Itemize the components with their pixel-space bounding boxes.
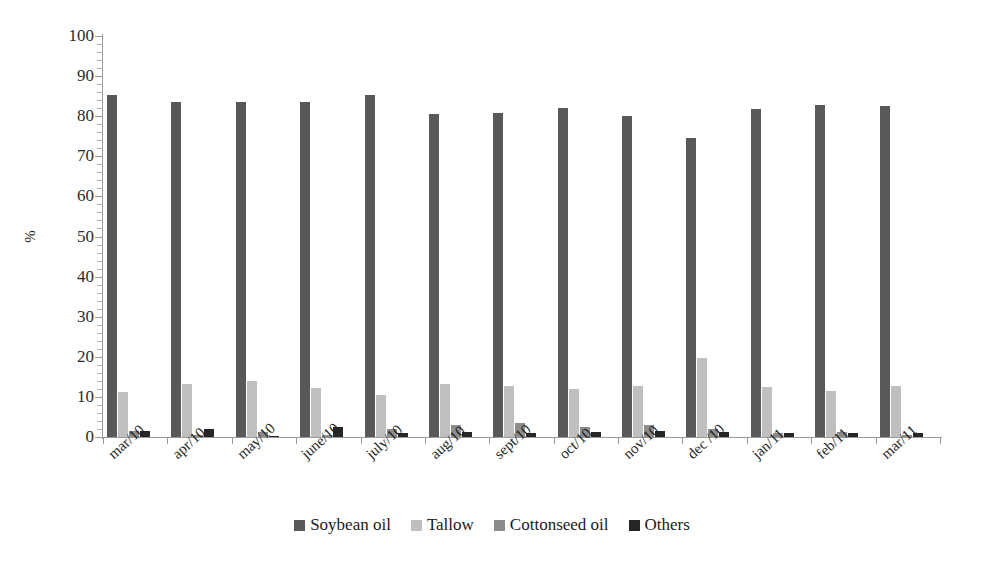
y-axis-tick-label: 70 bbox=[48, 147, 94, 164]
legend-label: Cottonseed oil bbox=[510, 515, 609, 535]
bar bbox=[107, 95, 117, 437]
bar bbox=[751, 109, 761, 437]
bar bbox=[247, 381, 257, 437]
y-axis-tick bbox=[95, 277, 103, 278]
y-axis-tick-label: 60 bbox=[48, 187, 94, 204]
y-axis-tick bbox=[95, 317, 103, 318]
plot-area bbox=[103, 36, 940, 437]
legend-item[interactable]: Tallow bbox=[411, 515, 474, 535]
x-axis-tick bbox=[167, 437, 168, 444]
y-axis-tick bbox=[95, 116, 103, 117]
legend-item[interactable]: Others bbox=[629, 515, 690, 535]
x-axis-tick bbox=[554, 437, 555, 444]
legend-label: Soybean oil bbox=[310, 515, 391, 535]
x-axis-tick bbox=[296, 437, 297, 444]
x-axis-tick bbox=[103, 437, 104, 444]
bar bbox=[365, 95, 375, 437]
legend-label: Tallow bbox=[427, 515, 474, 535]
bar-chart: 0102030405060708090100 % mar/10apr/10may… bbox=[0, 0, 984, 569]
y-axis-tick-label: 100 bbox=[48, 27, 94, 44]
y-axis-tick-label: 50 bbox=[48, 228, 94, 245]
legend-item[interactable]: Cottonseed oil bbox=[494, 515, 609, 535]
x-axis-tick bbox=[232, 437, 233, 444]
y-axis-tick-label: 10 bbox=[48, 388, 94, 405]
legend-label: Others bbox=[645, 515, 690, 535]
y-axis-tick bbox=[95, 196, 103, 197]
y-axis-tick bbox=[95, 36, 103, 37]
y-axis-tick-label: 30 bbox=[48, 308, 94, 325]
bar bbox=[686, 138, 696, 437]
x-axis-tick bbox=[747, 437, 748, 444]
y-axis-tick bbox=[95, 76, 103, 77]
x-axis-tick bbox=[425, 437, 426, 444]
bar bbox=[880, 106, 890, 437]
y-axis-tick-label: 0 bbox=[48, 428, 94, 445]
y-axis-tick bbox=[95, 237, 103, 238]
y-axis-tick-label: 40 bbox=[48, 268, 94, 285]
bar bbox=[236, 102, 246, 437]
y-axis-tick bbox=[95, 397, 103, 398]
x-axis-tick bbox=[361, 437, 362, 444]
y-axis-tick bbox=[95, 156, 103, 157]
x-axis-tick bbox=[489, 437, 490, 444]
y-axis-title: % bbox=[22, 230, 39, 243]
x-axis-tick bbox=[618, 437, 619, 444]
y-axis-tick-label: 90 bbox=[48, 67, 94, 84]
bar bbox=[171, 102, 181, 437]
x-axis-tick bbox=[811, 437, 812, 444]
bar bbox=[300, 102, 310, 437]
x-axis-tick bbox=[876, 437, 877, 444]
legend-item[interactable]: Soybean oil bbox=[294, 515, 391, 535]
bar bbox=[815, 105, 825, 437]
legend-swatch-icon bbox=[629, 520, 640, 531]
y-axis-tick bbox=[95, 357, 103, 358]
y-axis-tick-label: 20 bbox=[48, 348, 94, 365]
bar bbox=[493, 113, 503, 437]
chart-legend: Soybean oilTallowCottonseed oilOthers bbox=[0, 515, 984, 535]
legend-swatch-icon bbox=[411, 520, 422, 531]
x-axis-tick bbox=[682, 437, 683, 444]
legend-swatch-icon bbox=[494, 520, 505, 531]
x-axis-tick bbox=[940, 437, 941, 444]
bar bbox=[429, 114, 439, 437]
legend-swatch-icon bbox=[294, 520, 305, 531]
y-axis-tick-label: 80 bbox=[48, 107, 94, 124]
bar bbox=[558, 108, 568, 437]
bar bbox=[697, 358, 707, 437]
bar bbox=[622, 116, 632, 437]
